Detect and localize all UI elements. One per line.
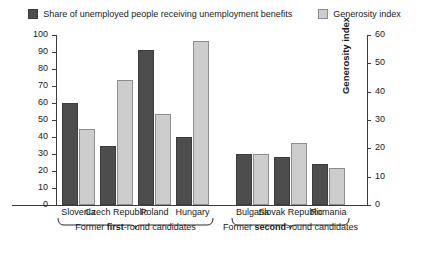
axis-tick-label: 40	[22, 132, 48, 141]
bar-share-slovak-republic	[274, 157, 290, 205]
bar-share-slovenia	[62, 103, 78, 205]
axis-tick-label: 40	[375, 87, 401, 96]
legend-label-share: Share of unemployed people receiving une…	[43, 10, 292, 19]
plot-area: 0102030405060708090100 0102030405060	[56, 35, 368, 205]
axis-tick-label: 30	[375, 115, 401, 124]
square-outline-light-icon	[318, 9, 328, 19]
bar-generosity-slovak-republic	[291, 143, 307, 205]
axis-tick-label: 20	[22, 166, 48, 175]
legend-entry-share: Share of unemployed people receiving une…	[28, 9, 292, 19]
group-labels: Former first-round candidatesFormer seco…	[0, 222, 429, 236]
axis-tick-label: 30	[22, 149, 48, 158]
group-label-second-round: Former second-round candidates	[201, 222, 381, 232]
bar-generosity-czech-republic	[117, 80, 133, 205]
bar-share-poland	[138, 50, 154, 205]
axis-tick-label: 50	[22, 115, 48, 124]
axis-tick-label: 80	[22, 64, 48, 73]
axis-tick-label: 20	[375, 143, 401, 152]
bar-series-group	[56, 35, 368, 205]
axis-tick-label: 60	[375, 30, 401, 39]
axis-tick-label: 100	[22, 30, 48, 39]
bar-generosity-bulgaria	[253, 154, 269, 205]
axis-tick-label: 10	[22, 183, 48, 192]
axis-tick	[367, 205, 371, 206]
chart-legend: Share of unemployed people receiving une…	[0, 6, 429, 22]
bar-share-bulgaria	[236, 154, 252, 205]
bar-share-romania	[312, 164, 328, 205]
axis-tick	[52, 205, 56, 206]
baseline-axis	[12, 205, 368, 206]
group-label-first-round: Former first-round candidates	[46, 222, 226, 232]
axis-tick-label: 70	[22, 81, 48, 90]
chart-container: Share of unemployed people receiving une…	[0, 0, 429, 262]
axis-tick-label: 10	[375, 172, 401, 181]
axis-tick-label: 90	[22, 47, 48, 56]
bar-generosity-hungary	[193, 41, 209, 205]
bar-share-hungary	[176, 137, 192, 205]
bar-generosity-poland	[155, 114, 171, 205]
square-filled-dark-icon	[28, 9, 38, 19]
bar-share-czech-republic	[100, 146, 116, 206]
bar-generosity-slovenia	[79, 129, 95, 206]
right-axis-title: Generosity index	[340, 11, 351, 101]
bar-generosity-romania	[329, 168, 345, 205]
axis-tick-label: 50	[375, 58, 401, 67]
axis-tick-label: 60	[22, 98, 48, 107]
legend-entry-generosity: Generosity index	[318, 9, 401, 19]
